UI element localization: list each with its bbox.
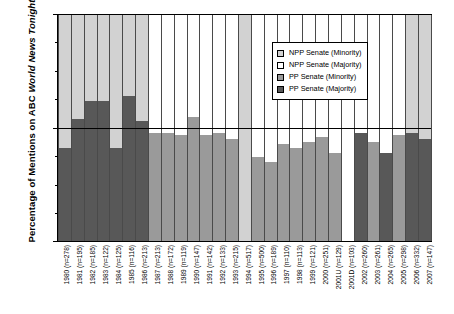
y-axis-title-italic: World News Tonight xyxy=(26,0,37,93)
x-tick-label: 1998 (n=113) xyxy=(290,243,303,314)
x-tick-label: 2001U (n=129) xyxy=(329,243,342,314)
bar-segment-pp-maj xyxy=(355,133,367,241)
legend-item-label: NPP Senate (Majority) xyxy=(289,61,361,69)
bar-segment-pp-maj xyxy=(72,119,84,241)
x-tick-label: 1991 (n=142) xyxy=(199,243,212,314)
chart-figure: Percentage of Mentions on ABC World News… xyxy=(0,0,454,314)
bar-segment-npp-maj xyxy=(393,15,405,135)
stacked-bar xyxy=(174,15,188,241)
bar-stack-container xyxy=(58,15,431,241)
x-tick-label: 1997 (n=110) xyxy=(277,243,290,314)
x-tick-label: 2005 (n=298) xyxy=(393,243,406,314)
bar-segment-npp-maj xyxy=(149,15,161,133)
bar-segment-pp-min xyxy=(162,133,174,241)
x-tick-label: 2003 (n=261) xyxy=(368,243,381,314)
bar-segment-pp-maj xyxy=(110,148,122,241)
bar-segment-npp-maj xyxy=(200,15,212,135)
x-tick-label: 1993 (n=215) xyxy=(225,243,238,314)
x-tick-label: 1981 (n=195) xyxy=(70,243,83,314)
legend-item-label: NPP Senate (Minority) xyxy=(289,49,361,57)
bar-segment-npp-min xyxy=(72,15,84,119)
bar-segment-pp-maj xyxy=(59,148,71,241)
y-axis-title-plain: Percentage of Mentions on ABC xyxy=(26,93,37,243)
x-tick-label: 1990 (n=147) xyxy=(186,243,199,314)
stacked-bar xyxy=(58,15,72,241)
x-tick-label: 1983 (n=122) xyxy=(96,243,109,314)
bar-segment-pp-min xyxy=(226,139,238,241)
stacked-bar xyxy=(199,15,213,241)
legend-swatch-icon xyxy=(277,62,284,69)
x-tick-label: 2002 (n=260) xyxy=(355,243,368,314)
bar-segment-pp-maj xyxy=(419,139,431,241)
x-tick-label: 1994 (n=517) xyxy=(238,243,251,314)
bar-segment-pp-min xyxy=(188,117,200,241)
stacked-bar xyxy=(405,15,419,241)
x-tick-label: 1992 (n=133) xyxy=(212,243,225,314)
bar-segment-npp-min xyxy=(110,15,122,148)
legend-swatch-icon xyxy=(277,50,284,57)
bar-segment-pp-min xyxy=(175,135,187,241)
bar-segment-npp-maj xyxy=(380,15,392,153)
bar-segment-npp-maj xyxy=(188,15,200,117)
stacked-bar xyxy=(122,15,136,241)
bar-segment-npp-maj xyxy=(213,15,225,133)
bar-segment-npp-min xyxy=(85,15,97,101)
bar-segment-pp-min xyxy=(316,137,328,241)
x-tick-label: 2004 (n=265) xyxy=(380,243,393,314)
chart-legend: NPP Senate (Minority)NPP Senate (Majorit… xyxy=(272,42,368,100)
bar-segment-npp-maj xyxy=(175,15,187,135)
stacked-bar xyxy=(187,15,201,241)
legend-swatch-icon xyxy=(277,86,284,93)
legend-item: PP Senate (Minority) xyxy=(277,71,361,83)
x-tick-label: 1988 (n=172) xyxy=(161,243,174,314)
x-tick-label-text: 2007 (n=147) xyxy=(426,245,433,284)
bar-segment-pp-min xyxy=(278,144,290,241)
x-tick-label: 1996 (n=189) xyxy=(264,243,277,314)
x-tick-label: 2000 (n=251) xyxy=(316,243,329,314)
bar-segment-npp-min xyxy=(59,15,71,148)
x-tick-label: 2006 (n=332) xyxy=(406,243,419,314)
stacked-bar xyxy=(71,15,85,241)
bar-segment-npp-maj xyxy=(252,15,264,157)
y-axis-title: Percentage of Mentions on ABC World News… xyxy=(26,0,42,244)
stacked-bar xyxy=(97,15,111,241)
x-tick-label: 1989 (n=119) xyxy=(173,243,186,314)
stacked-bar xyxy=(251,15,265,241)
bar-segment-pp-min xyxy=(329,153,341,241)
x-tick-label: 1999 (n=121) xyxy=(303,243,316,314)
bar-segment-pp-maj xyxy=(85,101,97,241)
bar-segment-pp-maj xyxy=(123,96,135,241)
x-tick-label: 1984 (n=125) xyxy=(109,243,122,314)
x-axis-tick-labels: 1980 (n=278)1981 (n=195)1982 (n=185)1983… xyxy=(57,243,432,314)
x-tick-label: 1995 (n=500) xyxy=(251,243,264,314)
bar-segment-pp-min xyxy=(393,135,405,241)
bar-segment-pp-min xyxy=(213,133,225,241)
x-tick-label: 1985 (n=116) xyxy=(122,243,135,314)
legend-item-label: PP Senate (Majority) xyxy=(289,85,356,93)
x-tick-label: 2001D (n=103) xyxy=(342,243,355,314)
bar-segment-npp-min xyxy=(98,15,110,101)
bar-segment-npp-maj xyxy=(368,15,380,142)
legend-item-label: PP Senate (Minority) xyxy=(289,73,356,81)
stacked-bar xyxy=(238,15,252,241)
bar-segment-npp-min xyxy=(239,15,251,241)
bar-segment-pp-min xyxy=(368,142,380,241)
legend-swatch-icon xyxy=(277,74,284,81)
bar-segment-pp-maj xyxy=(380,153,392,241)
x-tick-label: 1982 (n=185) xyxy=(83,243,96,314)
stacked-bar xyxy=(418,15,432,241)
stacked-bar xyxy=(135,15,149,241)
bar-segment-pp-min xyxy=(303,142,315,241)
x-tick-label: 1987 (n=213) xyxy=(148,243,161,314)
bar-segment-pp-maj xyxy=(406,133,418,241)
stacked-bar xyxy=(379,15,393,241)
stacked-bar xyxy=(109,15,123,241)
bar-segment-pp-maj xyxy=(98,101,110,241)
stacked-bar xyxy=(392,15,406,241)
bar-segment-npp-maj xyxy=(226,15,238,139)
bar-segment-npp-min xyxy=(136,15,148,121)
legend-item: PP Senate (Majority) xyxy=(277,83,361,95)
bar-segment-pp-maj xyxy=(136,121,148,241)
x-tick-label: 2007 (n=147) xyxy=(419,243,432,314)
bar-segment-npp-min xyxy=(406,15,418,133)
